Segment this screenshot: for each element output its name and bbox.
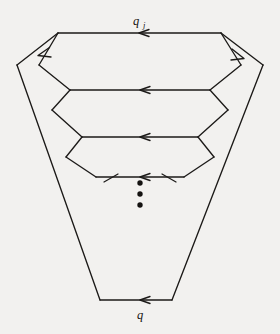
canvas-background [0,0,280,334]
nested-cycle-diagram: q j q [0,0,280,334]
ellipsis-dot-1 [137,180,142,185]
bottom-label-base: q [137,308,143,322]
top-label-base: q [133,14,139,28]
ellipsis-dot-3 [137,202,142,207]
figure-root: q j q [0,0,280,334]
ellipsis-dot-2 [137,191,142,196]
